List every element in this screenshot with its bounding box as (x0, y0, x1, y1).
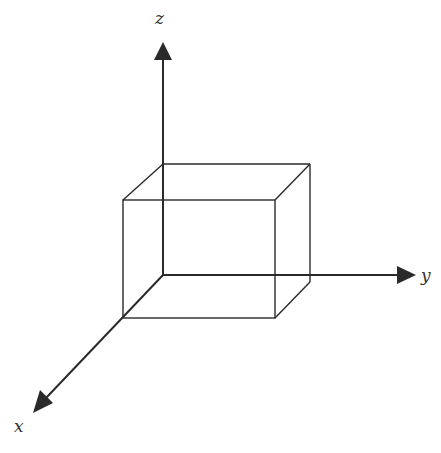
x-axis-label: x (14, 416, 24, 436)
z-arrow-icon (154, 42, 172, 60)
box-edge-top-right (275, 164, 310, 200)
box-edge-top-left (123, 164, 163, 200)
coordinate-diagram: z y x (0, 0, 441, 453)
axes (33, 42, 416, 413)
box-front-face (123, 200, 275, 318)
y-arrow-icon (397, 266, 416, 284)
z-axis-label: z (154, 8, 165, 28)
x-axis (46, 275, 163, 398)
box-edge-bottom-right (275, 282, 310, 318)
y-axis-label: y (420, 265, 431, 285)
box (123, 164, 310, 318)
